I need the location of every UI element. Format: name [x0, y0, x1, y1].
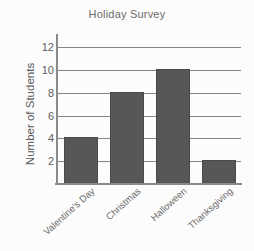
gridline	[57, 47, 241, 48]
gridline	[57, 116, 241, 117]
y-tick-label: 6	[32, 111, 54, 122]
bar-chart: Holiday Survey Number of Students 246810…	[0, 0, 254, 251]
bar[interactable]	[202, 160, 236, 184]
y-tick-label: 2	[32, 156, 54, 167]
y-tick-label: 10	[32, 65, 54, 76]
x-axis-tick-labels: Valentine's DayChristmasHalloweenThanksg…	[57, 186, 247, 251]
gridline	[57, 93, 241, 94]
x-axis-line	[55, 183, 242, 185]
bar[interactable]	[64, 137, 98, 184]
bar[interactable]	[156, 69, 190, 184]
bar[interactable]	[110, 92, 144, 184]
y-axis-tick-labels: 24681012	[28, 36, 54, 184]
y-tick-label: 4	[32, 133, 54, 144]
x-tick-label: Halloween	[149, 186, 189, 223]
y-axis-line	[56, 34, 58, 185]
x-tick-label: Valentine's Day	[42, 186, 97, 237]
gridline	[57, 70, 241, 71]
plot-area	[57, 36, 241, 184]
y-tick-label: 8	[32, 88, 54, 99]
x-tick-label: Thanksgiving	[186, 186, 234, 231]
chart-title: Holiday Survey	[0, 8, 254, 20]
x-tick-label: Christmas	[104, 186, 142, 222]
y-tick-label: 12	[32, 42, 54, 53]
